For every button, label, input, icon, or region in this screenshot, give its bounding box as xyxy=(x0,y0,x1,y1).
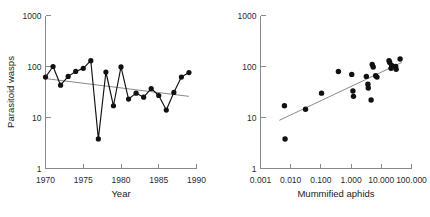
x-tick-label: 0.100 xyxy=(310,175,332,185)
data-point xyxy=(66,74,71,79)
data-point xyxy=(368,97,373,102)
data-point xyxy=(282,103,287,108)
y-tick-label: 10 xyxy=(247,113,257,123)
data-point xyxy=(186,70,191,75)
data-point xyxy=(43,74,48,79)
x-tick-label: 1985 xyxy=(149,175,168,185)
data-point xyxy=(319,90,324,95)
panel-b-x-axis-title: Mummified aphids xyxy=(297,188,374,199)
data-point xyxy=(336,69,341,74)
x-tick-label: 0.010 xyxy=(280,175,302,185)
data-point xyxy=(349,72,354,77)
data-series-line xyxy=(46,61,189,139)
panel-a-data xyxy=(43,58,192,141)
data-point xyxy=(156,93,161,98)
data-point xyxy=(393,67,398,72)
y-tick-label: 100 xyxy=(27,62,41,72)
panel-parasitoid-wasps-vs-year: 1101001000 19701975198019851990 Year Par… xyxy=(0,0,215,217)
data-point xyxy=(126,96,131,101)
data-point xyxy=(73,69,78,74)
data-point xyxy=(371,64,376,69)
data-point xyxy=(366,85,371,90)
data-point xyxy=(141,95,146,100)
panel-a-x-ticks: 19701975198019851990 xyxy=(36,164,206,185)
data-point xyxy=(103,69,108,74)
panel-b-canvas: 1101001000 0.0010.0100.1001.00010.000100… xyxy=(215,0,430,217)
panel-b-x-ticks: 0.0010.0100.1001.00010.000100.000 xyxy=(250,164,427,185)
x-tick-label: 1.000 xyxy=(340,175,362,185)
x-tick-label: 10.000 xyxy=(368,175,394,185)
panel-b-data xyxy=(279,56,403,141)
y-tick-label: 100 xyxy=(242,62,256,72)
data-point xyxy=(58,83,63,88)
data-point xyxy=(364,74,369,79)
data-point xyxy=(171,90,176,95)
panel-a-x-axis-title: Year xyxy=(111,188,130,199)
data-point xyxy=(179,74,184,79)
panel-a-y-axis-title: Parasitoid wasps xyxy=(5,56,16,128)
y-tick-label: 1 xyxy=(37,164,42,174)
data-point xyxy=(81,66,86,71)
data-point xyxy=(282,136,287,141)
figure-two-panel-plot: 1101001000 19701975198019851990 Year Par… xyxy=(0,0,430,217)
data-point xyxy=(50,64,55,69)
panel-a-y-ticks: 1101001000 xyxy=(23,11,51,174)
y-tick-label: 10 xyxy=(32,113,42,123)
panel-b-axes xyxy=(261,16,412,169)
data-point xyxy=(96,136,101,141)
data-point xyxy=(374,74,379,79)
y-tick-label: 1 xyxy=(252,164,257,174)
data-point xyxy=(351,94,356,99)
x-tick-label: 1980 xyxy=(112,175,131,185)
panel-b-y-ticks: 1101001000 xyxy=(238,11,266,174)
data-point xyxy=(397,56,402,61)
data-point xyxy=(111,103,116,108)
x-tick-label: 0.001 xyxy=(250,175,272,185)
x-tick-label: 1970 xyxy=(36,175,55,185)
panel-a-canvas: 1101001000 19701975198019851990 Year Par… xyxy=(0,0,215,217)
panel-parasitoid-wasps-vs-mummified-aphids: 1101001000 0.0010.0100.1001.00010.000100… xyxy=(215,0,430,217)
x-tick-label: 100.000 xyxy=(396,175,427,185)
data-point xyxy=(118,64,123,69)
x-tick-label: 1990 xyxy=(187,175,206,185)
y-tick-label: 1000 xyxy=(23,11,42,21)
data-point xyxy=(303,107,308,112)
data-point xyxy=(350,88,355,93)
data-point xyxy=(134,91,139,96)
data-point xyxy=(149,86,154,91)
y-tick-label: 1000 xyxy=(238,11,257,21)
data-point xyxy=(88,58,93,63)
data-point xyxy=(164,107,169,112)
x-tick-label: 1975 xyxy=(74,175,93,185)
